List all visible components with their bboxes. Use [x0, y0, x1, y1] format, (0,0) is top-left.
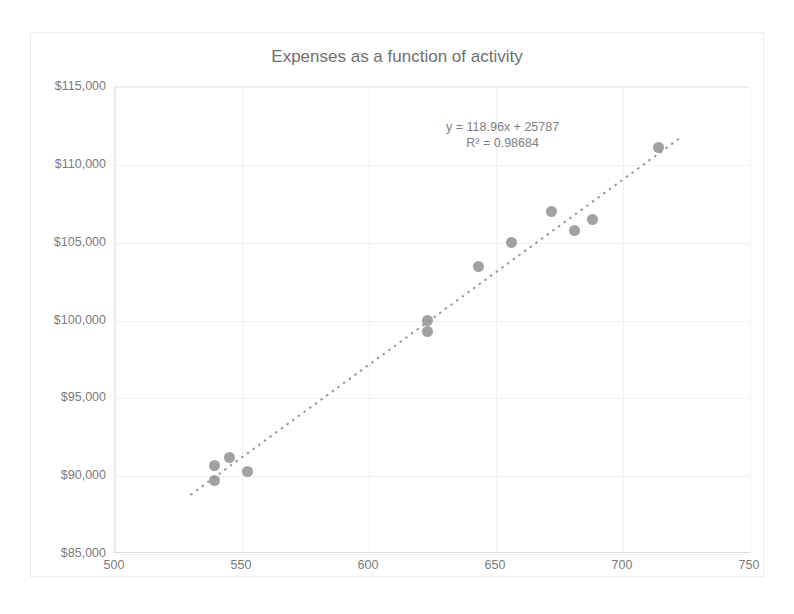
- y-axis-tick-label: $110,000: [55, 157, 106, 171]
- y-axis-tick-label: $105,000: [54, 235, 106, 249]
- x-axis-tick-label: 750: [739, 558, 760, 572]
- x-axis-tick-label: 700: [612, 558, 633, 572]
- gridline-horizontal: [115, 554, 749, 555]
- data-point: [506, 237, 517, 248]
- data-point: [224, 452, 235, 463]
- chart-title: Expenses as a function of activity: [31, 47, 763, 67]
- y-axis-tick-label: $115,000: [55, 79, 106, 93]
- data-point: [569, 225, 580, 236]
- x-axis-tick-label: 650: [485, 558, 506, 572]
- gridline-vertical: [750, 87, 751, 553]
- x-axis-tick-label: 500: [104, 558, 125, 572]
- trendline-equation-text: y = 118.96x + 25787: [446, 119, 559, 135]
- data-point: [209, 460, 220, 471]
- page-top-cutoff-text: [96, 0, 716, 4]
- y-axis-tick-label: $85,000: [61, 546, 106, 560]
- trendline-equation-annotation: y = 118.96x + 25787 R² = 0.98684: [446, 119, 559, 151]
- data-point: [209, 475, 220, 486]
- x-axis-tick-label: 600: [358, 558, 379, 572]
- y-axis-tick-label: $90,000: [61, 468, 106, 482]
- y-axis-tick-labels: $85,000$90,000$95,000$100,000$105,000$11…: [31, 86, 106, 553]
- y-axis-tick-label: $95,000: [61, 390, 106, 404]
- data-point: [242, 466, 253, 477]
- y-axis-tick-label: $100,000: [54, 313, 106, 327]
- data-point: [422, 315, 433, 326]
- data-point: [422, 326, 433, 337]
- trendline-r2-text: R² = 0.98684: [446, 135, 559, 151]
- data-point: [473, 261, 484, 272]
- x-axis-tick-labels: 500550600650700750: [114, 558, 749, 578]
- plot-area: y = 118.96x + 25787 R² = 0.98684: [114, 86, 749, 553]
- x-axis-tick-label: 550: [231, 558, 252, 572]
- chart-frame: Expenses as a function of activity $85,0…: [30, 32, 764, 577]
- data-point: [587, 214, 598, 225]
